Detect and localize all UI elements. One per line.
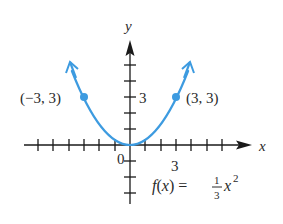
fraction-numerator: 1 <box>214 174 220 186</box>
svg-text:f(x) =: f(x) = <box>152 177 187 195</box>
y-axis <box>124 52 136 204</box>
parabola-graph: y x 0 3 3 (−3, 3) (3, 3) f(x) = 1 3 x 2 <box>0 0 283 224</box>
point-right-label: (3, 3) <box>186 90 219 107</box>
fraction-denominator: 3 <box>214 189 220 201</box>
x-tick-label-3: 3 <box>171 158 179 174</box>
x-axis-label: x <box>258 138 266 154</box>
function-label: f(x) = 1 3 x 2 <box>152 172 239 201</box>
point-neg3-3 <box>80 93 88 101</box>
y-axis-label: y <box>123 18 132 34</box>
origin-label: 0 <box>117 151 125 167</box>
point-3-3 <box>172 93 180 101</box>
function-exponent: 2 <box>233 172 239 184</box>
y-tick-label-3: 3 <box>139 90 147 106</box>
point-left-label: (−3, 3) <box>20 90 61 107</box>
function-variable: x <box>223 177 231 194</box>
